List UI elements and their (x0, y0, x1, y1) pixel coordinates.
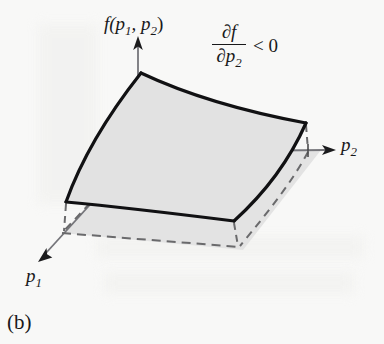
partial-derivative-fraction: ∂f ∂p2 (212, 22, 246, 70)
partial-derivative-denominator-base: ∂p (216, 45, 235, 66)
p1-axis-arrowhead (38, 248, 52, 262)
partial-derivative-relation: < 0 (251, 36, 278, 55)
partial-derivative-denominator-sub: 2 (235, 55, 241, 70)
p2-axis-label-sub: 2 (351, 144, 357, 159)
p1-axis-label-base: p (26, 265, 36, 286)
partial-derivative-numerator: ∂f (219, 22, 240, 44)
p2-axis-label-base: p (341, 134, 351, 155)
z-axis-label-close: ) (157, 13, 163, 34)
p2-axis-label: p2 (341, 135, 357, 159)
dashed-vertical-front-left (64, 204, 66, 231)
z-axis-label: f(p1, p2) (104, 14, 163, 38)
figure-caption: (b) (7, 312, 32, 333)
figure-container: f(p1, p2) p2 p1 ∂f ∂p2 < 0 (b) (0, 0, 384, 344)
partial-derivative-denominator: ∂p2 (213, 45, 244, 70)
z-axis-label-f: f(p (104, 13, 125, 34)
z-axis-label-mid: , p (132, 13, 151, 34)
surface-plot-graphic (0, 0, 384, 344)
p1-axis-label-sub: 1 (36, 275, 42, 290)
partial-derivative-annotation: ∂f ∂p2 < 0 (212, 22, 278, 70)
p1-axis-label: p1 (26, 266, 42, 290)
